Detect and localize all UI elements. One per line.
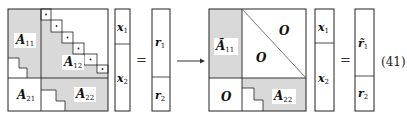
right-x-vector: x1 x2 — [315, 9, 334, 111]
label-r2: r2 — [155, 89, 165, 103]
label-r1-tilde: r̃1 — [358, 37, 368, 51]
left-x-vector: x1 x2 — [115, 9, 130, 111]
equals-sign-left: = — [136, 52, 147, 67]
label-a21: A21 — [16, 88, 35, 103]
label-r1: r1 — [155, 36, 165, 50]
block-elimination-diagram: A11 A12 A21 A22 x1 x2 = r1 r2 Ã11 O — [0, 0, 407, 115]
label-o-lower: O — [256, 51, 267, 65]
label-x2: x2 — [116, 72, 128, 86]
label-o-upper: O — [279, 24, 290, 38]
label-right-x1: x1 — [317, 21, 329, 35]
right-r-tilde-vector: r̃1 r2 — [355, 9, 374, 111]
left-matrix: A11 A12 A21 A22 — [8, 9, 108, 111]
label-o-bottom-left: O — [221, 90, 232, 104]
right-matrix: Ã11 O O O A22 — [209, 9, 306, 111]
upper-block-diagonal — [242, 9, 306, 78]
label-right-r2: r2 — [358, 87, 368, 101]
left-r-vector: r1 r2 — [152, 9, 170, 111]
label-x1: x1 — [116, 21, 128, 35]
transform-arrow-icon — [177, 59, 205, 64]
equation-number: (41) — [381, 55, 406, 69]
label-right-x2: x2 — [317, 72, 329, 86]
equals-sign-right: = — [340, 52, 351, 67]
